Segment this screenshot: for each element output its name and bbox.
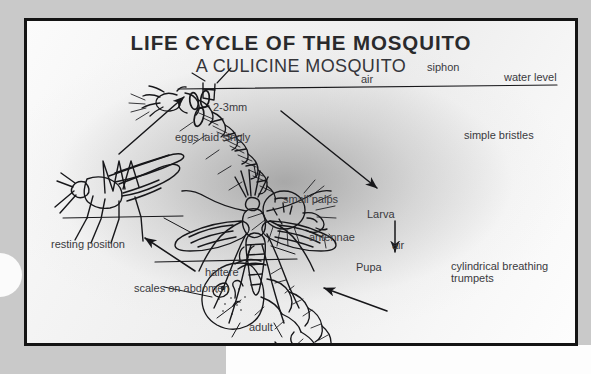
- label-antennae: antennae: [309, 231, 355, 243]
- resting-adult-illustration: [55, 154, 184, 243]
- life-cycle-diagram: [27, 21, 575, 343]
- label-resting-position: resting position: [51, 238, 125, 250]
- label-cylindrical-breathing-trumpets: cylindrical breathing trumpets: [451, 260, 559, 285]
- label-eggs-laid-singly: eggs laid singly: [175, 131, 250, 143]
- mosquito-life-cycle-poster-page: LIFE CYCLE OF THE MOSQUITO A CULICINE MO…: [0, 0, 591, 374]
- cycle-arrow-pupa-to-adult: [324, 288, 387, 311]
- label-egg-size: 2-3mm: [213, 101, 247, 113]
- water-level-line: [178, 85, 557, 89]
- cycle-arrow-adult-to-resting: [145, 238, 195, 271]
- label-scales-on-abdomen: scales on abdomen: [134, 282, 229, 294]
- label-pupa: Pupa: [356, 261, 382, 273]
- label-larva: Larva: [367, 208, 395, 220]
- label-air-top: air: [361, 73, 373, 85]
- label-simple-bristles: simple bristles: [464, 129, 534, 141]
- label-adult: adult: [249, 321, 273, 333]
- label-air-pupa: air: [392, 239, 404, 251]
- label-water-level: water level: [504, 71, 557, 83]
- cycle-arrow-eggs-to-larva: [281, 111, 377, 188]
- cycle-arrow-adult-to-eggs: [119, 97, 184, 154]
- poster-frame: LIFE CYCLE OF THE MOSQUITO A CULICINE MO…: [24, 18, 578, 346]
- siphon-leader: [192, 68, 231, 83]
- label-small-palps: small palps: [283, 193, 338, 205]
- label-haltere: haltere: [205, 266, 239, 278]
- label-siphon: siphon: [427, 61, 459, 73]
- poster-canvas: LIFE CYCLE OF THE MOSQUITO A CULICINE MO…: [27, 21, 575, 343]
